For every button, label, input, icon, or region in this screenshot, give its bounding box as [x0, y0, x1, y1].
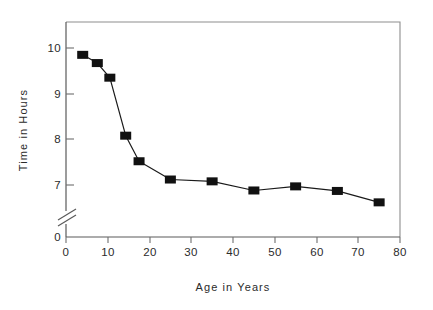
x-axis-title: Age in Years	[196, 281, 271, 293]
data-point-marker	[92, 59, 103, 67]
data-point-marker	[207, 177, 218, 185]
y-tick-label-9: 9	[54, 88, 61, 100]
data-point-marker	[134, 157, 145, 165]
x-tick-label-50: 50	[268, 246, 282, 258]
data-point-marker	[120, 132, 131, 140]
chart-background	[0, 0, 433, 310]
x-tick-label-30: 30	[184, 246, 198, 258]
y-axis-title: Time in Hours	[17, 89, 29, 171]
data-point-marker	[165, 176, 176, 184]
chart-figure: 10 9 8 7 0 0 10 20 30 40 50 60 70	[0, 0, 433, 310]
y-tick-label-8: 8	[54, 133, 61, 145]
data-point-marker	[248, 186, 259, 194]
data-point-marker	[332, 187, 343, 195]
data-point-marker	[290, 182, 301, 190]
x-tick-label-60: 60	[310, 246, 324, 258]
x-tick-label-40: 40	[226, 246, 240, 258]
data-point-marker	[77, 51, 88, 59]
x-tick-label-10: 10	[101, 246, 115, 258]
data-point-marker	[374, 198, 385, 206]
x-tick-label-20: 20	[143, 246, 157, 258]
data-point-marker	[104, 74, 115, 82]
line-chart-svg: 10 9 8 7 0 0 10 20 30 40 50 60 70	[0, 0, 433, 310]
x-tick-label-80: 80	[393, 246, 407, 258]
y-tick-label-7: 7	[54, 179, 61, 191]
y-tick-label-10: 10	[47, 42, 61, 54]
y-tick-label-0: 0	[54, 231, 61, 243]
x-tick-label-0: 0	[63, 246, 70, 258]
x-tick-label-70: 70	[351, 246, 365, 258]
x-tick-labels: 0 10 20 30 40 50 60 70 80	[63, 246, 407, 258]
